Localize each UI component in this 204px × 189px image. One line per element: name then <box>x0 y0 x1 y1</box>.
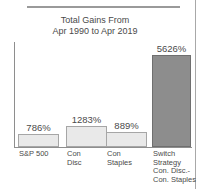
bar[interactable] <box>152 55 191 147</box>
x-axis-line <box>14 147 192 148</box>
bar-slot: 5626% <box>152 42 191 147</box>
bar-slot: 889% <box>106 42 147 147</box>
category-label-line: Con. Staples <box>153 176 204 185</box>
chart-title-line-2: Apr 1990 to Apr 2019 <box>0 26 190 37</box>
chart-title-line-1: Total Gains From <box>0 15 190 26</box>
category-label-line: S&P 500 <box>19 150 72 159</box>
bar[interactable] <box>106 132 147 147</box>
bar-slot: 786% <box>18 42 59 147</box>
bar-series: 786%1283%889%5626% <box>14 42 194 147</box>
bar-value-label: 786% <box>12 122 65 133</box>
category-label: S&P 500 <box>19 150 72 159</box>
bar-value-label: 5626% <box>146 43 197 54</box>
category-axis-labels: S&P 500ConDiscConStaplesSwitchStrategyCo… <box>14 150 194 189</box>
bar[interactable] <box>18 134 59 147</box>
plot-area: 786%1283%889%5626% <box>14 42 194 148</box>
chart-title: Total Gains From Apr 1990 to Apr 2019 <box>0 15 190 37</box>
category-label: SwitchStrategyCon. Disc.-Con. Staples <box>153 150 204 184</box>
bar-slot: 1283% <box>66 42 107 147</box>
top-divider-rule <box>27 6 180 8</box>
bar-value-label: 889% <box>100 120 153 131</box>
